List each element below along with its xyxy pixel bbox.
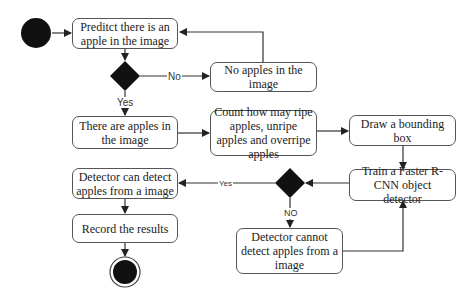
node-there-are-apples: There are apples in the image [72,116,178,149]
node-train: Train a Faster R-CNN object detector [349,169,456,201]
node-cannot-detect: Detector cannot detect apples from a ima… [236,228,343,274]
edge-label-d1-yes: Yes [116,97,134,108]
node-no-apples: No apples in the image [210,62,317,92]
node-can-detect: Detector can detect apples from a image [72,168,178,199]
node-record: Record the results [72,214,178,243]
decision-diamond-1 [110,61,140,91]
node-bounding-box: Draw a bounding box [349,115,456,146]
edge-label-d2-yes: Yes [218,178,233,189]
initial-node [21,18,51,48]
node-predict: Preditct there is an apple in the image [72,18,178,49]
final-node [113,260,137,284]
decision-diamond-2 [275,168,305,198]
edge-label-d1-no: No [167,71,182,82]
edge-label-d2-no: NO [283,208,299,219]
node-count: Count how may ripe apples, unripe apples… [210,110,317,156]
